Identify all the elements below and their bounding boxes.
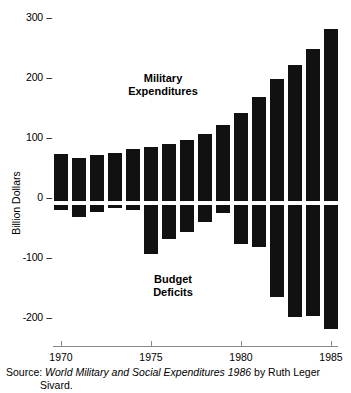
x-axis-tick-label-1985: 1985 — [311, 350, 351, 364]
bar-budget-deficit-1970 — [54, 205, 69, 209]
bar-budget-deficit-1983 — [288, 205, 303, 316]
bar-military-expenditures-1983 — [288, 65, 303, 202]
bar-budget-deficit-1981 — [252, 205, 267, 247]
bar-budget-deficit-1984 — [306, 205, 321, 315]
y-axis-tick-dash: – — [43, 130, 52, 144]
source-note: Source: World Military and Social Expend… — [6, 366, 346, 392]
chart-figure: 300– 200– 100– 0– -100– -200– Billion Do… — [0, 0, 351, 393]
y-axis-tick-label-neg200: -200 — [23, 311, 43, 323]
x-axis-tick-mark-1970 — [61, 341, 62, 347]
bar-military-expenditures-1978 — [198, 134, 213, 201]
bar-military-expenditures-1982 — [270, 79, 285, 201]
source-author-continued: Sivard. — [6, 379, 346, 392]
annotation-budget-deficits: Budget Deficits — [118, 273, 228, 299]
bar-military-expenditures-1974 — [126, 149, 141, 201]
x-axis-tick-mark-1975 — [151, 341, 152, 347]
bar-budget-deficit-1980 — [234, 205, 249, 243]
bar-budget-deficit-1973 — [108, 205, 123, 208]
x-axis-tick-label-1970: 1970 — [41, 350, 81, 364]
bar-military-expenditures-1973 — [108, 153, 123, 201]
bar-budget-deficit-1978 — [198, 205, 213, 222]
y-axis-tick-dash: – — [43, 310, 52, 324]
y-axis-tick-dash: – — [43, 70, 52, 84]
y-axis-tick-200: 200– — [0, 70, 52, 84]
x-axis-tick-mark-1985 — [331, 341, 332, 347]
annotation-military-expenditures: Military Expenditures — [108, 72, 218, 98]
y-axis-tick-neg100: -100– — [0, 250, 52, 264]
bar-budget-deficit-1976 — [162, 205, 177, 238]
source-suffix: by Ruth Leger — [251, 366, 320, 378]
bar-budget-deficit-1972 — [90, 205, 105, 212]
y-axis-tick-dash: – — [43, 10, 52, 24]
bar-budget-deficit-1974 — [126, 205, 141, 209]
bar-military-expenditures-1984 — [306, 49, 321, 201]
y-axis-tick-label-300: 300 — [26, 11, 43, 23]
bar-military-expenditures-1981 — [252, 97, 267, 201]
y-axis-tick-300: 300– — [0, 10, 52, 24]
y-axis-title: Billion Dollars — [9, 153, 23, 253]
bar-budget-deficit-1979 — [216, 205, 231, 213]
x-axis-line — [53, 346, 338, 347]
x-axis-tick-mark-1980 — [241, 341, 242, 347]
bar-military-expenditures-1985 — [324, 29, 339, 202]
bar-budget-deficit-1975 — [144, 205, 159, 253]
bar-budget-deficit-1971 — [72, 205, 87, 217]
bar-military-expenditures-1975 — [144, 147, 159, 202]
bar-budget-deficit-1985 — [324, 205, 339, 329]
y-axis-tick-neg200: -200– — [0, 310, 52, 324]
bar-budget-deficit-1982 — [270, 205, 285, 296]
bar-military-expenditures-1976 — [162, 144, 177, 201]
y-axis-tick-label-200: 200 — [26, 71, 43, 83]
bar-military-expenditures-1979 — [216, 125, 231, 201]
bar-military-expenditures-1970 — [54, 154, 69, 201]
bar-budget-deficit-1977 — [180, 205, 195, 232]
bar-military-expenditures-1971 — [72, 158, 87, 201]
y-axis-tick-label-100: 100 — [26, 131, 43, 143]
bar-military-expenditures-1977 — [180, 140, 195, 201]
y-axis-tick-dash: – — [43, 190, 52, 204]
x-axis-tick-label-1975: 1975 — [131, 350, 171, 364]
bar-military-expenditures-1980 — [234, 113, 249, 202]
y-axis-tick-0: 0– — [0, 190, 52, 204]
x-axis-tick-label-1980: 1980 — [221, 350, 261, 364]
source-publication-title: World Military and Social Expenditures 1… — [45, 366, 251, 378]
y-axis-tick-dash: – — [43, 250, 52, 264]
bar-military-expenditures-1972 — [90, 155, 105, 201]
source-prefix: Source: — [6, 366, 45, 378]
y-axis-tick-label-neg100: -100 — [23, 251, 43, 263]
y-axis-tick-100: 100– — [0, 130, 52, 144]
